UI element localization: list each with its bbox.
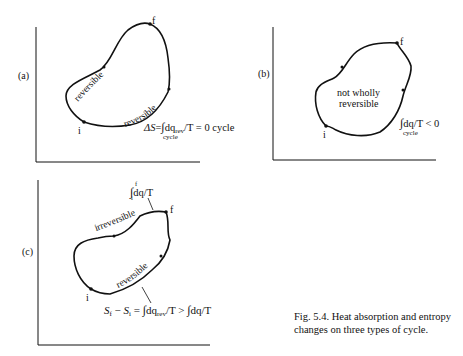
panel-c-label: (c) [22,246,33,258]
panel-c-f-label: f [170,204,174,215]
panel-c-top-equation: ∫dq/T f i [129,180,154,201]
svg-text:cycle: cycle [403,129,418,137]
panel-a-f-label: f [152,15,156,26]
panel-c-point-f [164,210,168,214]
panel-a-label: (a) [18,70,29,82]
panel-c-top-leader [148,198,153,210]
panel-a-arrow-marker [103,66,106,69]
panel-c: (c) i f irreversible reversible ∫dq/T f … [22,180,212,345]
panel-b-center-text-1: not wholly [337,87,380,98]
panel-c-upper-path-label: irreversible [93,208,136,233]
panel-b-f-label: f [400,36,404,47]
panel-b-point-f [395,41,399,45]
panel-a: (a) i f reversible reversible ΔS=∫dqrev/… [18,15,235,162]
panel-b-point-i [324,124,328,128]
svg-text:i: i [131,194,133,201]
panel-a-point-i [82,120,86,124]
panel-a-arrow-marker [168,88,171,91]
panel-c-arrow-marker [113,235,116,238]
panel-a-upper-path-label: reversible [72,69,105,103]
panel-c-arrow-marker [160,255,163,258]
figure-canvas: (a) i f reversible reversible ΔS=∫dqrev/… [0,0,463,356]
panel-b-equation: ∫dq/T < 0 cycle [399,116,439,137]
svg-text:Sf − Si = ∫dqrev/T > ∫dq/T: Sf − Si = ∫dqrev/T > ∫dq/T [104,303,212,318]
panel-a-i-label: i [78,125,81,136]
svg-text:ΔS=∫dqrev/T = 0 cycle: ΔS=∫dqrev/T = 0 cycle [143,120,235,135]
panel-b: (b) i f not wholly reversible ∫dq/T < 0 … [258,27,439,160]
panel-c-bottom-equation: Sf − Si = ∫dqrev/T > ∫dq/T [104,303,212,318]
panel-c-point-i [89,287,93,291]
figure-caption: Fig. 5.4. Heat absorption and entropy ch… [294,310,463,336]
svg-text:∫dq/T < 0: ∫dq/T < 0 [399,116,439,130]
panel-b-center-text-2: reversible [339,98,379,109]
panel-c-bottom-leader [142,287,151,303]
svg-text:cycle: cycle [163,133,178,141]
panel-c-i-label: i [86,292,89,303]
panel-a-equation: ΔS=∫dqrev/T = 0 cycle cycle [143,120,235,141]
panel-b-arrow-marker [341,66,344,69]
panel-b-label: (b) [258,68,270,80]
svg-text:f: f [135,180,138,187]
panel-b-arrow-marker [402,89,405,92]
panel-b-i-label: i [323,129,326,140]
